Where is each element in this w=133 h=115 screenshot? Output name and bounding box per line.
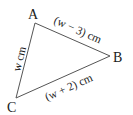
- vertex-b-label: B: [113, 50, 122, 65]
- triangle-diagram: A B C (w − 3) cm w cm (w + 2) cm: [0, 0, 133, 115]
- side-ac-label: w cm: [10, 45, 28, 72]
- vertex-a-label: A: [28, 7, 39, 22]
- vertex-c-label: C: [7, 100, 16, 115]
- side-cb-label: (w + 2) cm: [43, 71, 95, 104]
